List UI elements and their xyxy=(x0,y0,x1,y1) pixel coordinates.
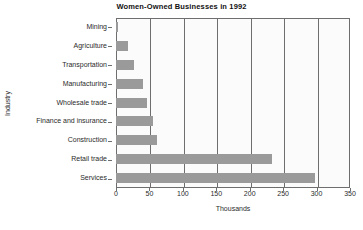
bar-row xyxy=(116,169,350,188)
y-tick-label: Finance and insurance xyxy=(36,112,107,131)
y-tick-mark xyxy=(108,27,112,28)
y-tick-mark xyxy=(108,160,112,161)
bar-row xyxy=(116,56,350,75)
chart-figure: Women-Owned Businesses in 1992 Industry … xyxy=(0,0,363,230)
x-tick-label: 0 xyxy=(114,190,118,197)
bar xyxy=(116,41,128,51)
bar-row xyxy=(116,18,350,37)
chart-title: Women-Owned Businesses in 1992 xyxy=(0,2,363,11)
x-tick-label: 100 xyxy=(177,190,189,197)
bar xyxy=(116,154,272,164)
y-tick-mark xyxy=(108,179,112,180)
bars-layer xyxy=(116,18,350,188)
bar-row xyxy=(116,94,350,113)
x-tick-label: 250 xyxy=(277,190,289,197)
y-axis-tick-labels: MiningAgricultureTransportationManufactu… xyxy=(0,18,112,188)
x-tick-mark xyxy=(183,188,184,191)
bar xyxy=(116,116,153,126)
x-tick-mark xyxy=(350,188,351,191)
y-tick-mark xyxy=(108,84,112,85)
y-tick-mark xyxy=(108,46,112,47)
y-tick-label: Retail trade xyxy=(71,150,107,169)
bar xyxy=(116,79,143,89)
y-tick-label: Manufacturing xyxy=(63,75,107,94)
x-tick-label: 50 xyxy=(146,190,154,197)
bar xyxy=(116,60,134,70)
x-tick-mark xyxy=(116,188,117,191)
y-tick-mark xyxy=(108,65,112,66)
y-tick-label: Services xyxy=(80,169,107,188)
y-tick-label: Transportation xyxy=(62,56,107,75)
y-tick-label: Agriculture xyxy=(74,37,107,56)
x-tick-mark xyxy=(216,188,217,191)
bar-row xyxy=(116,75,350,94)
x-tick-mark xyxy=(149,188,150,191)
x-tick-mark xyxy=(283,188,284,191)
y-tick-mark xyxy=(108,103,112,104)
x-tick-label: 300 xyxy=(311,190,323,197)
y-tick-mark xyxy=(108,122,112,123)
y-tick-label: Mining xyxy=(86,18,107,37)
bar-row xyxy=(116,150,350,169)
x-tick-label: 150 xyxy=(210,190,222,197)
bar xyxy=(116,98,147,108)
y-tick-label: Construction xyxy=(68,131,107,150)
y-tick-label: Wholesale trade xyxy=(56,94,107,113)
bar xyxy=(116,173,315,183)
x-tick-mark xyxy=(317,188,318,191)
bar-row xyxy=(116,131,350,150)
y-tick-mark xyxy=(108,141,112,142)
x-tick-label: 350 xyxy=(344,190,356,197)
x-tick-mark xyxy=(250,188,251,191)
bar-row xyxy=(116,112,350,131)
x-tick-label: 200 xyxy=(244,190,256,197)
bar-row xyxy=(116,37,350,56)
bar xyxy=(116,22,118,32)
x-axis-title: Thousands xyxy=(116,205,350,212)
bar xyxy=(116,135,157,145)
x-axis-tick-labels: 050100150200250300350 xyxy=(0,190,363,204)
